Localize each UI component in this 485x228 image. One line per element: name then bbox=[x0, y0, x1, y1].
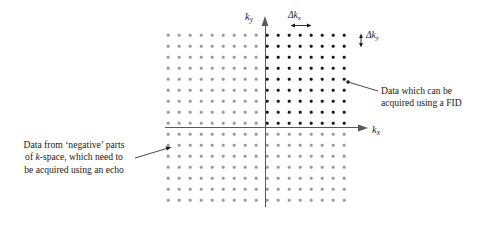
echo-annotation: Data from ‘negative’ parts of k-space, w… bbox=[14, 139, 134, 176]
fid-annotation-line-2: acquired using a FID bbox=[381, 97, 462, 109]
fid-annotation-line-1: Data which can be bbox=[381, 85, 462, 97]
echo-annotation-line-3: be acquired using an echo bbox=[14, 164, 134, 176]
echo-leader-arrowhead bbox=[166, 146, 172, 150]
echo-annotation-line-2: of k-space, which need to bbox=[14, 151, 134, 163]
fid-leader-dot bbox=[346, 80, 349, 83]
echo-leader-line bbox=[135, 148, 170, 159]
echo-annotation-line-1: Data from ‘negative’ parts bbox=[14, 139, 134, 151]
kspace-figure: kx ky Δkx Δky Data wh bbox=[0, 0, 485, 228]
annotation-layer: Δkx Δky Data which can be acquired using… bbox=[0, 0, 485, 228]
callout-leader-lines bbox=[0, 0, 485, 228]
fid-annotation: Data which can be acquired using a FID bbox=[381, 85, 462, 110]
fid-leader-line bbox=[348, 82, 378, 91]
